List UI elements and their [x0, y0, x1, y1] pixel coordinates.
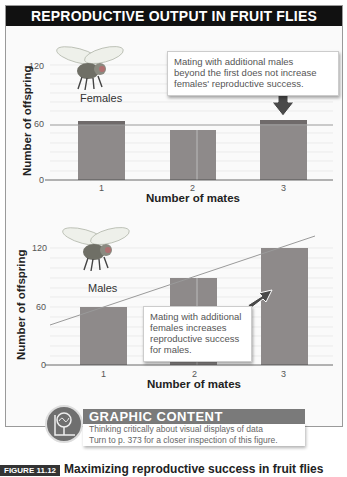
caption-text: Maximizing reproductive success in fruit… — [64, 462, 323, 476]
males-ytick-0: 0 — [41, 360, 46, 370]
females-xtick-1: 1 — [99, 183, 104, 193]
males-bar-1 — [80, 307, 127, 365]
graphic-content-badge: GRAPHIC CONTENT Thinking critically abou… — [45, 409, 300, 447]
females-series-label: Females — [80, 92, 122, 104]
females-bar-1-top — [78, 121, 125, 125]
males-ytick-120: 120 — [32, 243, 47, 253]
graphic-content-line1: Thinking critically about visual display… — [89, 424, 305, 435]
graphic-content-body: Thinking critically about visual display… — [83, 424, 305, 446]
males-callout-line: females increases — [150, 322, 245, 333]
male-fly-icon — [61, 224, 131, 271]
graphic-content-line2: Turn to p. 373 for a closer inspection o… — [89, 435, 305, 446]
males-callout: Mating with additional females increases… — [143, 306, 252, 362]
females-x-axis-label: Number of mates — [146, 192, 240, 204]
graphic-content-title: GRAPHIC CONTENT — [83, 409, 305, 424]
females-callout-line: females' reproductive success. — [174, 78, 332, 89]
females-callout: Mating with additional males beyond the … — [167, 51, 339, 96]
female-fly-icon — [55, 43, 125, 90]
males-callout-line: for males. — [150, 344, 245, 355]
figure-number: FIGURE 11.12 — [0, 465, 60, 476]
females-ytick-60: 60 — [34, 119, 44, 129]
males-x-axis-label: Number of mates — [147, 378, 241, 390]
males-callout-line: Mating with additional — [150, 311, 245, 322]
males-series-label: Males — [88, 282, 117, 294]
females-callout-line: beyond the first does not increase — [174, 67, 332, 78]
figure-caption: FIGURE 11.12Maximizing reproductive succ… — [0, 463, 347, 475]
males-bar-3 — [261, 248, 308, 365]
males-xtick-1: 1 — [101, 369, 106, 379]
females-bar-1 — [78, 121, 125, 180]
females-y-axis-label: Number of offspring — [21, 66, 33, 176]
females-xtick-3: 3 — [281, 183, 286, 193]
males-xtick-3: 3 — [281, 369, 286, 379]
females-bar-3 — [260, 120, 307, 180]
males-ytick-60: 60 — [36, 302, 46, 312]
chart-magnifier-icon — [45, 405, 83, 443]
males-y-axis-label: Number of offspring — [15, 250, 27, 360]
females-ytick-0: 0 — [39, 175, 44, 185]
females-callout-line: Mating with additional males — [174, 56, 332, 67]
females-bar-3-top — [260, 120, 307, 124]
males-callout-line: reproductive success — [150, 333, 245, 344]
females-bar-2 — [170, 130, 216, 180]
